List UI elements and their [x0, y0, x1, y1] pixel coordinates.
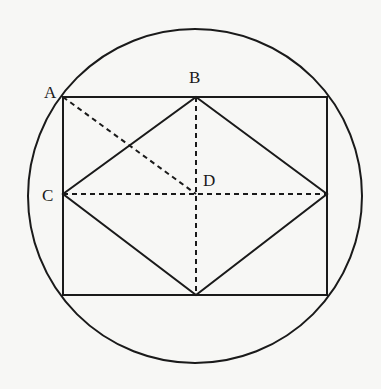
- label-A: A: [44, 83, 57, 102]
- geometry-diagram: A B C D: [0, 0, 381, 389]
- label-D: D: [203, 171, 215, 190]
- label-B: B: [189, 68, 200, 87]
- label-C: C: [42, 186, 53, 205]
